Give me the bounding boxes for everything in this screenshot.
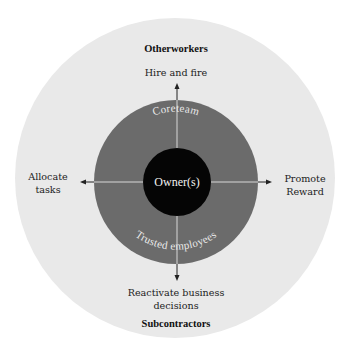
- outer-ring-bottom-label: Subcontractors: [142, 318, 211, 329]
- promote-reward-label-line2: Reward: [286, 186, 324, 197]
- reactivate-decisions-label-line1: Reactivate business: [128, 287, 225, 298]
- outer-ring-top-label: Otherworkers: [144, 43, 208, 54]
- promote-reward-label-line1: Promote: [284, 173, 326, 184]
- hire-and-fire-label: Hire and fire: [145, 67, 208, 78]
- reactivate-decisions-label-line2: decisions: [153, 300, 198, 311]
- core-label: Owner(s): [154, 175, 199, 189]
- organization-circle-diagram: Owner(s) Coreteam Trusted employees Othe…: [0, 0, 350, 355]
- allocate-tasks-label-line2: tasks: [35, 184, 60, 195]
- allocate-tasks-label-line1: Allocate: [27, 171, 68, 182]
